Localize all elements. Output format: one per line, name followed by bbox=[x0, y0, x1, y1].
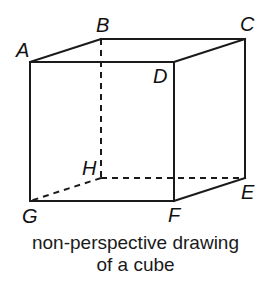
edge-CD bbox=[174, 39, 245, 62]
vertex-label-G: G bbox=[22, 205, 38, 227]
caption-line-1: non-perspective drawing bbox=[0, 232, 271, 253]
vertex-label-C: C bbox=[240, 13, 255, 35]
edge-AB bbox=[30, 39, 101, 62]
vertex-label-A: A bbox=[15, 39, 29, 61]
vertex-label-F: F bbox=[168, 204, 182, 226]
hidden-edge-HG bbox=[30, 178, 101, 201]
vertex-label-H: H bbox=[82, 157, 97, 179]
vertex-label-B: B bbox=[96, 14, 109, 36]
caption-line-2: of a cube bbox=[0, 254, 271, 275]
vertex-label-D: D bbox=[153, 65, 167, 87]
edge-EF bbox=[174, 178, 245, 201]
vertex-label-E: E bbox=[241, 181, 255, 203]
